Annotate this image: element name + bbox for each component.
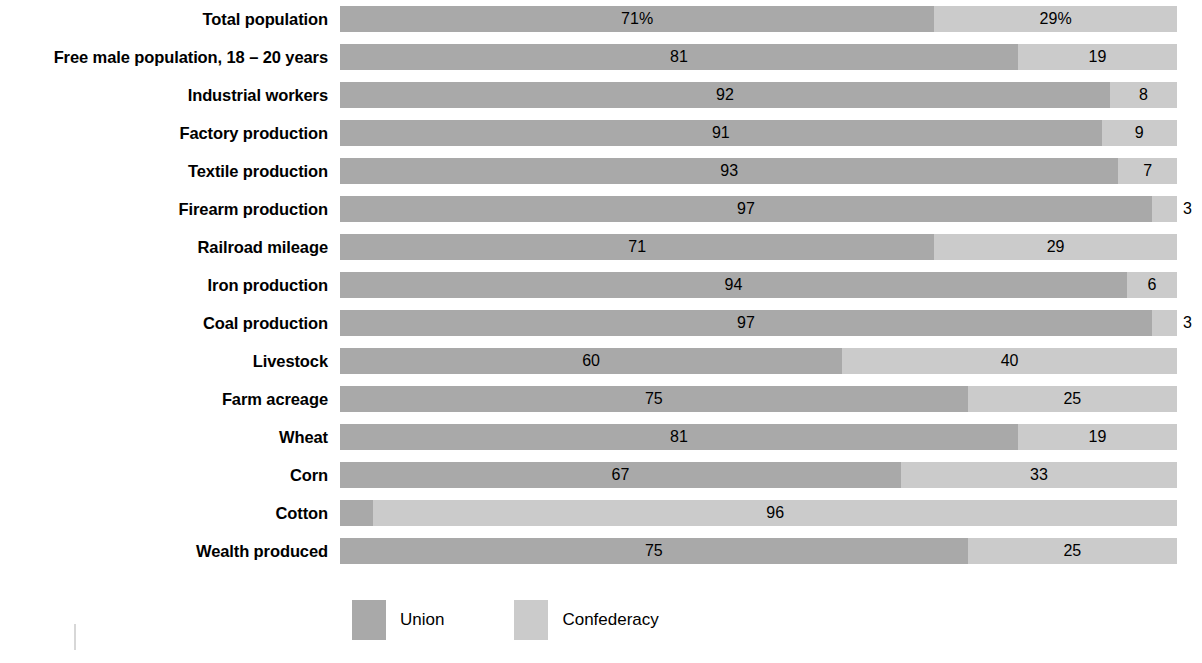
stacked-bar-chart: Total population71%29%Free male populati… — [0, 0, 1202, 663]
bar-value-union: 81 — [670, 429, 688, 445]
bar-value-confederacy: 29% — [1040, 11, 1072, 27]
bar-segment-union: 97 — [340, 196, 1152, 222]
bar-segment-union: 94 — [340, 272, 1127, 298]
bar-value-union: 67 — [611, 467, 629, 483]
bar-segment-confederacy: 33 — [901, 462, 1177, 488]
bar-track: 937 — [340, 158, 1177, 184]
row-label: Factory production — [0, 125, 340, 142]
bar-segment-confederacy: 40 — [842, 348, 1177, 374]
bar-track: 7525 — [340, 538, 1177, 564]
bar-track: 6733 — [340, 462, 1177, 488]
bar-value-confederacy: 8 — [1139, 87, 1148, 103]
bar-value-union: 71 — [628, 239, 646, 255]
chart-rows: Total population71%29%Free male populati… — [0, 0, 1202, 570]
bar-value-confederacy: 19 — [1089, 49, 1107, 65]
bar-segment-union: 60 — [340, 348, 842, 374]
bar-segment-confederacy: 6 — [1127, 272, 1177, 298]
bar-value-union: 97 — [737, 201, 755, 217]
bar-track: 7525 — [340, 386, 1177, 412]
bar-value-confederacy: 96 — [766, 505, 784, 521]
bar-segment-union: 91 — [340, 120, 1102, 146]
bar-value-union: 92 — [716, 87, 734, 103]
row-label: Iron production — [0, 277, 340, 294]
bar-segment-union: 93 — [340, 158, 1118, 184]
chart-row: Total population71%29% — [0, 0, 1202, 38]
row-label: Livestock — [0, 353, 340, 370]
legend-item: Confederacy — [514, 600, 658, 640]
row-label: Corn — [0, 467, 340, 484]
bar-value-confederacy: 40 — [1001, 353, 1019, 369]
row-label: Farm acreage — [0, 391, 340, 408]
bar-segment-confederacy: 29 — [934, 234, 1177, 260]
bar-segment-confederacy: 96 — [373, 500, 1177, 526]
chart-legend: UnionConfederacy — [352, 600, 729, 640]
bar-segment-union: 71 — [340, 234, 934, 260]
bar-value-union: 75 — [645, 391, 663, 407]
bar-value-confederacy: 9 — [1135, 125, 1144, 141]
row-label: Industrial workers — [0, 87, 340, 104]
legend-label: Union — [400, 610, 444, 630]
bar-track: 71%29% — [340, 6, 1177, 32]
scan-artifact-mark — [74, 624, 76, 650]
bar-segment-confederacy: 9 — [1102, 120, 1177, 146]
bar-value-union: 71% — [621, 11, 653, 27]
bar-segment-union: 97 — [340, 310, 1152, 336]
chart-row: Free male population, 18 – 20 years8119 — [0, 38, 1202, 76]
bar-value-confederacy: 25 — [1063, 391, 1081, 407]
bar-segment-confederacy: 25 — [968, 538, 1177, 564]
bar-value-confederacy: 19 — [1089, 429, 1107, 445]
chart-row: Corn6733 — [0, 456, 1202, 494]
row-label: Total population — [0, 11, 340, 28]
bar-segment-union: 75 — [340, 538, 968, 564]
bar-value-confederacy: 33 — [1030, 467, 1048, 483]
bar-value-union: 91 — [712, 125, 730, 141]
legend-item: Union — [352, 600, 444, 640]
bar-segment-confederacy: 29% — [934, 6, 1177, 32]
bar-segment-confederacy: 7 — [1118, 158, 1177, 184]
bar-segment-union: 81 — [340, 44, 1018, 70]
bar-track: 7129 — [340, 234, 1177, 260]
bar-segment-union: 75 — [340, 386, 968, 412]
legend-label: Confederacy — [562, 610, 658, 630]
bar-track: 496 — [340, 500, 1177, 526]
row-label: Coal production — [0, 315, 340, 332]
chart-row: Livestock6040 — [0, 342, 1202, 380]
bar-segment-union: 92 — [340, 82, 1110, 108]
bar-segment-union: 4 — [340, 500, 373, 526]
chart-row: Wheat8119 — [0, 418, 1202, 456]
bar-track: 8119 — [340, 424, 1177, 450]
bar-value-union: 75 — [645, 543, 663, 559]
chart-row: Factory production919 — [0, 114, 1202, 152]
row-label: Cotton — [0, 505, 340, 522]
bar-value-union: 93 — [720, 163, 738, 179]
bar-value-union: 97 — [737, 315, 755, 331]
row-label: Wheat — [0, 429, 340, 446]
bar-value-union: 60 — [582, 353, 600, 369]
bar-value-confederacy: 3 — [1183, 315, 1192, 331]
legend-swatch — [352, 600, 386, 640]
legend-swatch — [514, 600, 548, 640]
chart-row: Farm acreage7525 — [0, 380, 1202, 418]
bar-value-confederacy: 7 — [1143, 163, 1152, 179]
bar-track: 928 — [340, 82, 1177, 108]
bar-value-confederacy: 25 — [1063, 543, 1081, 559]
bar-segment-union: 81 — [340, 424, 1018, 450]
chart-row: Cotton496 — [0, 494, 1202, 532]
bar-track: 8119 — [340, 44, 1177, 70]
chart-row: Coal production973 — [0, 304, 1202, 342]
bar-track: 919 — [340, 120, 1177, 146]
bar-segment-union: 71% — [340, 6, 934, 32]
row-label: Railroad mileage — [0, 239, 340, 256]
bar-value-union: 81 — [670, 49, 688, 65]
chart-row: Firearm production973 — [0, 190, 1202, 228]
chart-row: Industrial workers928 — [0, 76, 1202, 114]
bar-segment-confederacy: 19 — [1018, 44, 1177, 70]
chart-row: Wealth produced7525 — [0, 532, 1202, 570]
row-label: Wealth produced — [0, 543, 340, 560]
row-label: Textile production — [0, 163, 340, 180]
bar-value-confederacy: 6 — [1147, 277, 1156, 293]
bar-segment-union: 67 — [340, 462, 901, 488]
bar-segment-confederacy: 3 — [1152, 310, 1177, 336]
bar-value-confederacy: 3 — [1183, 201, 1192, 217]
row-label: Free male population, 18 – 20 years — [0, 49, 340, 66]
